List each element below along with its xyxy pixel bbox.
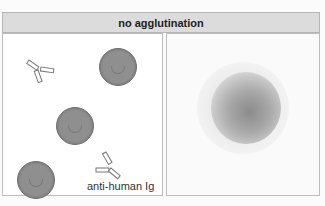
cell-button-core (211, 72, 281, 144)
diagram-title: no agglutination (2, 12, 320, 33)
antibody-icon (25, 58, 61, 88)
antibody-label: anti-human Ig (87, 180, 154, 192)
diagram-frame: no agglutination anti-human Ig (2, 12, 320, 196)
right-panel-result (166, 33, 320, 196)
red-blood-cell (99, 48, 137, 86)
left-panel-cells: anti-human Ig (2, 33, 163, 196)
red-blood-cell (17, 161, 55, 199)
antibody-icon (94, 150, 130, 180)
red-blood-cell (56, 107, 94, 145)
